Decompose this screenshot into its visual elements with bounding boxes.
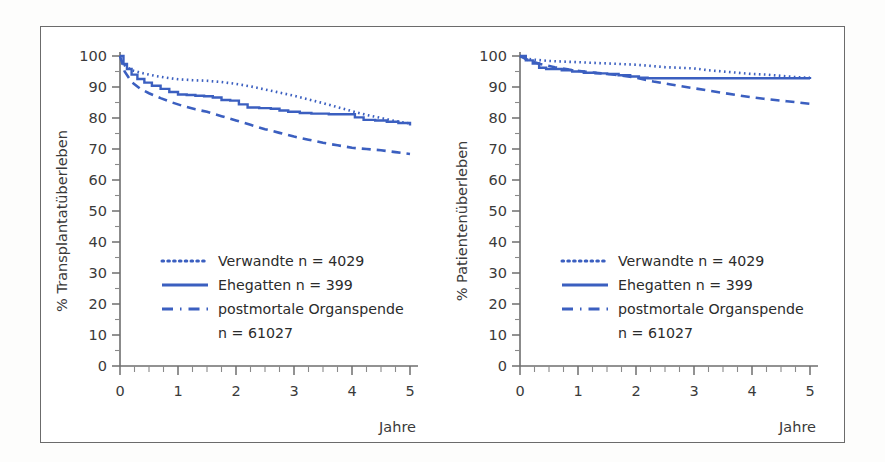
y-tick-label: 40 (489, 234, 507, 250)
x-tick-label: 2 (231, 383, 240, 399)
chart-panel-patient-survival: 0102030405060708090100012345% Patientenü… (441, 27, 846, 444)
y-axis-title: % Patientenüberleben (454, 141, 470, 302)
legend-label: Verwandte n = 4029 (218, 253, 364, 269)
y-tick-label: 0 (98, 358, 107, 374)
x-tick-label: 5 (805, 383, 814, 399)
x-tick-label: 3 (289, 383, 298, 399)
y-tick-label: 30 (89, 265, 107, 281)
y-tick-label: 40 (89, 234, 107, 250)
series-line-ehegatten (120, 56, 410, 125)
chart-panel-transplant-survival: 0102030405060708090100012345% Transplant… (41, 27, 446, 444)
legend-label: Ehegatten n = 399 (218, 277, 353, 293)
y-tick-label: 70 (489, 141, 507, 157)
y-axis-title: % Transplantatüberleben (54, 130, 70, 312)
x-tick-label: 5 (405, 383, 414, 399)
x-tick-label: 4 (347, 383, 356, 399)
y-tick-label: 50 (489, 203, 507, 219)
y-tick-label: 20 (89, 296, 107, 312)
y-tick-label: 10 (89, 327, 107, 343)
legend-label: postmortale Organspende (218, 301, 404, 317)
x-axis-title: Jahre (778, 419, 816, 435)
y-tick-label: 60 (489, 172, 507, 188)
x-tick-label: 0 (515, 383, 524, 399)
y-tick-label: 10 (489, 327, 507, 343)
y-tick-label: 20 (489, 296, 507, 312)
figure-page: 0102030405060708090100012345% Transplant… (0, 0, 885, 462)
legend: Verwandte n = 4029Ehegatten n = 399postm… (562, 253, 804, 341)
legend-label: postmortale Organspende (618, 301, 804, 317)
series-line-verwandte (520, 56, 810, 78)
y-tick-label: 90 (489, 79, 507, 95)
y-tick-label: 80 (489, 110, 507, 126)
legend-label: Ehegatten n = 399 (618, 277, 753, 293)
x-tick-label: 1 (173, 383, 182, 399)
figure-frame: 0102030405060708090100012345% Transplant… (40, 26, 845, 443)
y-tick-label: 80 (89, 110, 107, 126)
y-tick-label: 30 (489, 265, 507, 281)
y-tick-label: 90 (89, 79, 107, 95)
y-tick-label: 70 (89, 141, 107, 157)
y-tick-label: 100 (79, 48, 107, 64)
transplant-survival-chart: 0102030405060708090100012345% Transplant… (41, 27, 446, 444)
series-line-postmortale-organspende (520, 56, 810, 104)
y-tick-label: 100 (479, 48, 507, 64)
x-tick-label: 2 (631, 383, 640, 399)
y-tick-label: 60 (89, 172, 107, 188)
legend-label-second-line: n = 61027 (218, 325, 293, 341)
x-tick-label: 3 (689, 383, 698, 399)
x-axis-title: Jahre (378, 419, 416, 435)
y-tick-label: 50 (89, 203, 107, 219)
patient-survival-chart: 0102030405060708090100012345% Patientenü… (441, 27, 846, 444)
x-tick-label: 0 (115, 383, 124, 399)
x-tick-label: 1 (573, 383, 582, 399)
x-tick-label: 4 (747, 383, 756, 399)
series-line-postmortale-organspende (120, 56, 410, 154)
y-tick-label: 0 (498, 358, 507, 374)
legend: Verwandte n = 4029Ehegatten n = 399postm… (162, 253, 404, 341)
legend-label: Verwandte n = 4029 (618, 253, 764, 269)
legend-label-second-line: n = 61027 (618, 325, 693, 341)
